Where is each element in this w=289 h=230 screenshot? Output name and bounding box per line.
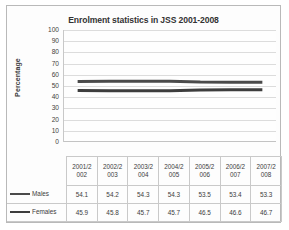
gridline	[64, 64, 276, 65]
y-tick-label: 100	[48, 27, 59, 34]
chart-title: Enrolment statistics in JSS 2001-2008	[7, 15, 280, 25]
y-tick-label: 40	[52, 94, 59, 101]
value-cell: 46.6	[220, 204, 251, 222]
gridline	[64, 120, 276, 121]
value-cell: 53.4	[220, 186, 251, 204]
value-cell: 46.7	[251, 204, 282, 222]
legend-item-males: Males	[7, 186, 67, 204]
series-line-males	[79, 81, 261, 82]
y-tick-label: 90	[52, 38, 59, 45]
chart-frame: Enrolment statistics in JSS 2001-2008 Pe…	[6, 5, 281, 223]
legend-label-females: Females	[32, 209, 57, 216]
y-tick-label: 50	[52, 83, 59, 90]
plot-area	[63, 30, 276, 142]
table-row-males: Males 54.154.254.354.353.553.453.3	[7, 186, 282, 204]
category-cell: 2004/2005	[159, 157, 190, 186]
value-cell: 54.1	[67, 186, 98, 204]
legend-label-males: Males	[32, 190, 49, 197]
data-table: 2001/20022002/20032003/20042004/20052005…	[7, 156, 282, 222]
value-cell: 54.3	[159, 186, 190, 204]
legend-line-icon-females	[10, 211, 30, 213]
gridline	[64, 97, 276, 98]
category-cell: 2006/2007	[220, 157, 251, 186]
y-axis-title: Percentage	[14, 46, 21, 110]
gridline	[64, 52, 276, 53]
value-cell: 45.7	[128, 204, 159, 222]
y-tick-label: 60	[52, 72, 59, 79]
table-row-categories: 2001/20022002/20032003/20042004/20052005…	[7, 157, 282, 186]
table-row-females: Females 45.945.845.745.746.546.646.7	[7, 204, 282, 222]
category-cell: 2007/2008	[251, 157, 282, 186]
gridline	[64, 41, 276, 42]
gridline	[64, 86, 276, 87]
plot-wrapper: Percentage 1009080706050403020100	[7, 30, 282, 158]
y-tick-label: 80	[52, 49, 59, 56]
gridline	[64, 131, 276, 132]
legend-item-females: Females	[7, 204, 67, 222]
category-cell: 2005/2006	[189, 157, 220, 186]
y-tick-label: 20	[52, 116, 59, 123]
value-cell: 45.7	[159, 204, 190, 222]
value-cell: 54.3	[128, 186, 159, 204]
value-cell: 45.9	[67, 204, 98, 222]
value-cell: 45.8	[97, 204, 128, 222]
series-line-females	[79, 90, 261, 91]
gridline	[64, 75, 276, 76]
value-cell: 53.5	[189, 186, 220, 204]
y-tick-label: 10	[52, 128, 59, 135]
legend-corner-cell	[7, 157, 67, 186]
category-cell: 2002/2003	[97, 157, 128, 186]
gridline	[64, 30, 276, 31]
y-tick-label: 30	[52, 105, 59, 112]
y-tick-label: 0	[55, 139, 59, 146]
category-cell: 2001/2002	[67, 157, 98, 186]
value-cell: 54.2	[97, 186, 128, 204]
y-tick-label: 70	[52, 60, 59, 67]
gridline	[64, 108, 276, 109]
value-cell: 46.5	[189, 204, 220, 222]
category-cell: 2003/2004	[128, 157, 159, 186]
value-cell: 53.3	[251, 186, 282, 204]
y-axis-tick-labels: 1009080706050403020100	[35, 30, 61, 142]
gridline	[64, 141, 276, 142]
legend-line-icon-males	[10, 193, 30, 195]
